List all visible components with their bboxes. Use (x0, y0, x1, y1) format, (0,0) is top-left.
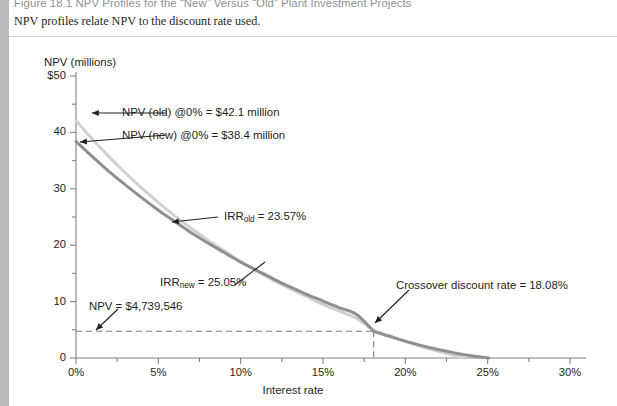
annotation-npv-old-at-zero: NPV (old) @0% = $42.1 million (122, 106, 280, 118)
leader-npv-old-head (92, 110, 99, 116)
leader-crossover (375, 290, 409, 323)
x-tick-5: 5% (133, 366, 183, 378)
irr-label-base: IRR (224, 210, 244, 222)
annotation-npv-crossover-value: NPV = $4,739,546 (89, 300, 182, 312)
annotation-irr-old: IRRold = 23.57% (224, 210, 306, 222)
y-tick-10: 10 (20, 295, 66, 307)
y-tick-40: 40 (20, 125, 66, 137)
x-tick-15: 15% (298, 366, 348, 378)
annotation-crossover-rate: Crossover discount rate = 18.08% (396, 279, 568, 291)
npv-curves (76, 121, 488, 358)
y-tick-20: 20 (20, 238, 66, 250)
x-tick-25: 25% (463, 366, 513, 378)
y-tick-30: 30 (20, 182, 66, 194)
x-tick-10: 10% (216, 366, 266, 378)
irr-label-subscript: old (244, 215, 255, 224)
x-tick-0: 0% (51, 366, 101, 378)
y-tick-0: 0 (20, 351, 66, 363)
irr-label-value: = 25.05% (195, 276, 247, 288)
crossover-guides (76, 331, 374, 358)
figure-container: Figure 18.1 NPV Profiles for the “New” V… (0, 0, 617, 406)
npv-profile-chart: NPV (millions) Interest rate 010203040$5… (0, 0, 617, 406)
irr-label-value: = 23.57% (255, 210, 307, 222)
annotation-irr-new: IRRnew = 25.05% (160, 276, 246, 288)
x-tick-20: 20% (380, 366, 430, 378)
curve-new (76, 141, 488, 358)
leader-npv-new-head (80, 138, 87, 144)
y-tick-50: $50 (20, 69, 66, 81)
curve-old (76, 121, 464, 358)
y-axis-title: NPV (millions) (44, 56, 116, 68)
annotation-npv-new-at-zero: NPV (new) @0% = $38.4 million (122, 129, 285, 141)
x-axis-title: Interest rate (0, 384, 586, 396)
irr-label-base: IRR (160, 276, 180, 288)
x-tick-30: 30% (545, 366, 595, 378)
irr-label-subscript: new (180, 281, 195, 290)
